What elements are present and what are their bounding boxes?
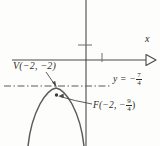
directrix-label: y = −74 — [113, 72, 142, 87]
parabola-curve — [28, 88, 84, 146]
directrix-denominator: 4 — [136, 79, 142, 87]
x-axis-label: x — [145, 33, 149, 44]
focus-label-suffix: ) — [132, 100, 135, 110]
focus-label-prefix: F(−2, − — [93, 100, 126, 110]
directrix-fraction: 74 — [136, 72, 142, 87]
directrix-label-prefix: y = − — [113, 74, 136, 84]
x-axis-arrowhead — [146, 55, 156, 66]
focus-leader-line — [60, 97, 92, 105]
directrix-numerator: 7 — [136, 72, 142, 79]
focus-point — [55, 93, 58, 96]
focus-label: F(−2, −94) — [93, 98, 135, 113]
vertex-label: V(−2, −2) — [13, 60, 56, 71]
focus-leader-arrowhead — [58, 94, 64, 98]
